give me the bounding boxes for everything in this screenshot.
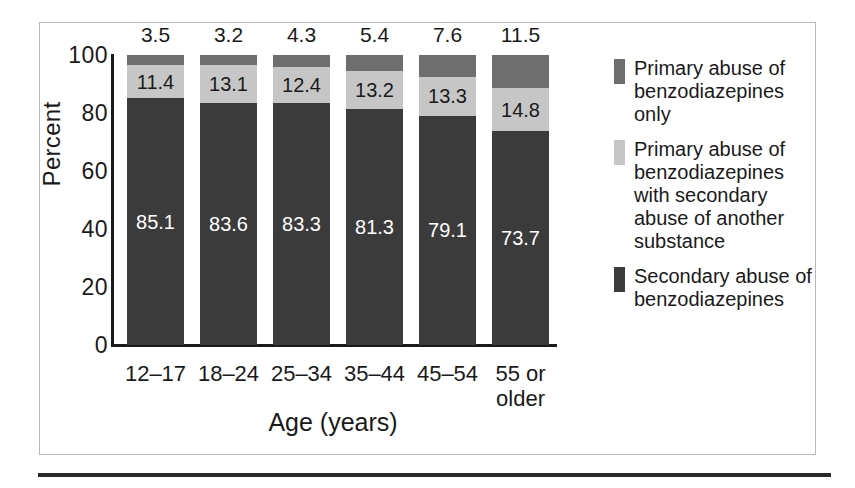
legend-item[interactable]: Primary abuse ofbenzodiazepinesonly xyxy=(614,57,814,125)
x-tick-label: 25–34 xyxy=(271,361,332,386)
bar-segment xyxy=(200,55,257,64)
legend-label-line: Secondary abuse of xyxy=(634,265,812,287)
legend-label-line: Primary abuse of xyxy=(634,138,785,160)
bar-group[interactable]: 4.312.483.325–34 xyxy=(273,55,330,345)
bar-stack: 3.213.183.6 xyxy=(200,55,257,345)
legend-label-line: benzodiazepines xyxy=(634,80,784,102)
legend-item-label: Primary abuse ofbenzodiazepineswith seco… xyxy=(634,138,785,252)
bar-segment: 83.3 xyxy=(273,103,330,345)
bar-segment: 13.2 xyxy=(346,71,403,109)
legend-item-label: Secondary abuse ofbenzodiazepines xyxy=(634,265,812,311)
bar-segment: 81.3 xyxy=(346,109,403,345)
x-tick-label: 35–44 xyxy=(344,361,405,386)
bar-value-label-top: 4.3 xyxy=(287,23,316,47)
bar-value-label-top: 5.4 xyxy=(360,23,389,47)
legend-swatch-icon xyxy=(614,59,625,84)
legend-label-line: substance xyxy=(634,230,725,252)
plot-area: 3.511.485.112–173.213.183.618–244.312.48… xyxy=(113,55,553,345)
x-tick-label: 18–24 xyxy=(198,361,259,386)
bar-group[interactable]: 11.514.873.755 orolder xyxy=(492,55,549,345)
x-tick-label-line: older xyxy=(496,386,545,411)
legend-label-line: benzodiazepines xyxy=(634,161,784,183)
legend-label-line: only xyxy=(634,103,671,125)
legend-label-line: benzodiazepines xyxy=(634,288,784,310)
x-tick-label-line: 18–24 xyxy=(198,361,259,386)
bar-value-label-top: 7.6 xyxy=(433,23,462,47)
bar-segment: 14.8 xyxy=(492,88,549,131)
bar-value-label-top: 3.2 xyxy=(214,23,243,47)
y-tick-label: 20 xyxy=(81,274,108,301)
x-tick-label-line: 12–17 xyxy=(125,361,186,386)
bar-value-label-top: 11.5 xyxy=(501,23,540,47)
y-tick-label: 60 xyxy=(81,158,108,185)
y-tick-label: 0 xyxy=(95,332,108,359)
bar-segment xyxy=(346,55,403,71)
bar-stack: 5.413.281.3 xyxy=(346,55,403,345)
bar-stack: 7.613.379.1 xyxy=(419,55,476,345)
bar-segment: 11.4 xyxy=(127,65,184,98)
chart-legend: Primary abuse ofbenzodiazepinesonlyPrima… xyxy=(614,57,814,324)
y-axis-title: Percent xyxy=(38,84,66,204)
x-tick-label-line: 35–44 xyxy=(344,361,405,386)
y-axis-tick-labels: 020406080100 xyxy=(40,0,108,488)
bar-segment xyxy=(273,55,330,67)
legend-swatch-icon xyxy=(614,140,625,165)
x-axis-title: Age (years) xyxy=(113,408,553,437)
bar-segment xyxy=(127,55,184,65)
bar-segment xyxy=(492,55,549,88)
x-tick-label: 12–17 xyxy=(125,361,186,386)
bar-group[interactable]: 3.213.183.618–24 xyxy=(200,55,257,345)
legend-item[interactable]: Secondary abuse ofbenzodiazepines xyxy=(614,265,814,311)
bar-stack: 11.514.873.7 xyxy=(492,55,549,345)
bar-segment: 73.7 xyxy=(492,131,549,345)
bar-group[interactable]: 3.511.485.112–17 xyxy=(127,55,184,345)
bar-value-label-top: 3.5 xyxy=(141,23,170,47)
bar-segment: 12.4 xyxy=(273,67,330,103)
x-tick-label: 45–54 xyxy=(417,361,478,386)
x-tick-label-line: 55 or xyxy=(495,361,545,386)
legend-item[interactable]: Primary abuse ofbenzodiazepineswith seco… xyxy=(614,138,814,252)
bar-stack: 3.511.485.1 xyxy=(127,55,184,345)
legend-label-line: abuse of another xyxy=(634,207,784,229)
bar-segment: 85.1 xyxy=(127,98,184,345)
y-tick-label: 40 xyxy=(81,216,108,243)
y-tick-label: 100 xyxy=(68,42,108,69)
bar-stack: 4.312.483.3 xyxy=(273,55,330,345)
y-tick-label: 80 xyxy=(81,100,108,127)
legend-swatch-icon xyxy=(614,267,625,292)
bar-group[interactable]: 7.613.379.145–54 xyxy=(419,55,476,345)
bar-group[interactable]: 5.413.281.335–44 xyxy=(346,55,403,345)
bar-segment: 13.3 xyxy=(419,77,476,116)
legend-item-label: Primary abuse ofbenzodiazepinesonly xyxy=(634,57,785,125)
bar-segment: 13.1 xyxy=(200,65,257,103)
bar-segment: 83.6 xyxy=(200,103,257,345)
x-tick-label: 55 orolder xyxy=(495,361,545,412)
bar-segment xyxy=(419,55,476,77)
legend-label-line: Primary abuse of xyxy=(634,57,785,79)
x-tick-label-line: 45–54 xyxy=(417,361,478,386)
bar-segment: 79.1 xyxy=(419,116,476,345)
legend-label-line: with secondary xyxy=(634,184,767,206)
x-tick-label-line: 25–34 xyxy=(271,361,332,386)
bottom-rule xyxy=(38,473,831,477)
